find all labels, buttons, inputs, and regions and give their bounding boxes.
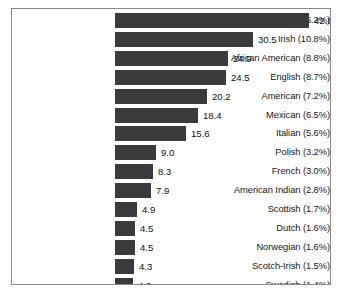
bar-track: 8.3	[115, 164, 328, 179]
bar-rect	[115, 259, 134, 274]
bar-track: 24.9	[115, 51, 328, 66]
bar-track: 30.5	[115, 32, 328, 47]
bar-value-label: 42.8	[314, 13, 331, 28]
bar-row: Mexican (6.5%)18.4	[12, 108, 330, 123]
bar-rect	[115, 202, 137, 217]
bar-track: 15.6	[115, 126, 328, 141]
bar-value-label: 15.6	[191, 126, 210, 141]
bar-rect	[115, 126, 186, 141]
bar-row: Scottish (1.7%)4.9	[12, 202, 330, 217]
bar-value-label: 9.0	[161, 145, 174, 160]
bar-value-label: 4.0	[138, 278, 151, 285]
bar-rect	[115, 145, 156, 160]
bar-track: 4.5	[115, 240, 328, 255]
bar-rect	[115, 164, 153, 179]
bar-value-label: 7.9	[156, 183, 169, 198]
bar-rect	[115, 32, 253, 47]
bar-row: American Indian (2.8%)7.9	[12, 183, 330, 198]
bar-value-label: 18.4	[203, 108, 222, 123]
bar-row: Irish (10.8%)30.5	[12, 32, 330, 47]
bar-value-label: 30.5	[258, 32, 277, 47]
bar-rect	[115, 183, 151, 198]
bar-value-label: 8.3	[158, 164, 171, 179]
bar-row: Swedish (1.4%)4.0	[12, 278, 330, 285]
bar-value-label: 4.9	[142, 202, 155, 217]
bar-value-label: 24.5	[231, 70, 250, 85]
bar-row: French (3.0%)8.3	[12, 164, 330, 179]
bar-track: 4.0	[115, 278, 328, 285]
bar-row: Scotch-Irish (1.5%)4.3	[12, 259, 330, 274]
bar-track: 4.9	[115, 202, 328, 217]
bar-row: Polish (3.2%)9.0	[12, 145, 330, 160]
bar-chart-figure: German (15.2%)42.8Irish (10.8%)30.5Afric…	[0, 0, 343, 292]
bar-track: 20.2	[115, 89, 328, 104]
bar-row: African American (8.8%)24.9	[12, 51, 330, 66]
bar-rect	[115, 89, 207, 104]
chart-frame: German (15.2%)42.8Irish (10.8%)30.5Afric…	[11, 8, 331, 285]
bar-row: Italian (5.6%)15.6	[12, 126, 330, 141]
bar-rect	[115, 51, 228, 66]
bar-rect	[115, 240, 135, 255]
bar-row: English (8.7%)24.5	[12, 70, 330, 85]
bar-track: 4.3	[115, 259, 328, 274]
bar-value-label: 4.3	[139, 259, 152, 274]
bar-value-label: 24.9	[233, 51, 252, 66]
bar-row: American (7.2%)20.2	[12, 89, 330, 104]
bar-rect	[115, 13, 309, 28]
bar-row: Norwegian (1.6%)4.5	[12, 240, 330, 255]
bar-track: 9.0	[115, 145, 328, 160]
bar-track: 7.9	[115, 183, 328, 198]
bar-value-label: 4.5	[140, 221, 153, 236]
bar-row: Dutch (1.6%)4.5	[12, 221, 330, 236]
bar-track: 24.5	[115, 70, 328, 85]
bar-value-label: 4.5	[140, 240, 153, 255]
plot-area: German (15.2%)42.8Irish (10.8%)30.5Afric…	[12, 9, 330, 284]
bar-rect	[115, 70, 226, 85]
bar-value-label: 20.2	[212, 89, 231, 104]
bar-rect	[115, 278, 133, 285]
bar-rect	[115, 221, 135, 236]
bar-row: German (15.2%)42.8	[12, 13, 330, 28]
bar-rect	[115, 108, 198, 123]
bar-track: 42.8	[115, 13, 328, 28]
bar-track: 4.5	[115, 221, 328, 236]
bar-track: 18.4	[115, 108, 328, 123]
